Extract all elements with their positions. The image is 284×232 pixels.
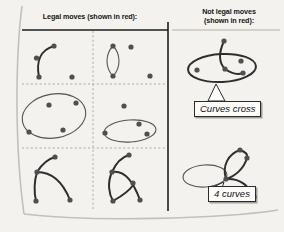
callout-curves-cross: Curves cross — [194, 101, 261, 117]
not-legal-moves-header-line2: (shown in red): — [181, 16, 277, 25]
cell-1-1 — [34, 43, 75, 79]
cell-1-2 — [107, 43, 153, 78]
page-edge-left — [17, 6, 24, 214]
figure-page: .curve{fill:none;stroke:#2e2e2e;stroke-w… — [0, 0, 284, 232]
legal-moves-header: Legal moves (shown in red): — [24, 12, 156, 21]
page-edge-bottom — [24, 210, 278, 219]
cell-2-2 — [102, 103, 156, 143]
callout-four-curves: 4 curves — [208, 186, 256, 202]
cell-2-1 — [19, 89, 90, 143]
cell-3-2 — [109, 152, 143, 203]
not-legal-moves-header: Not legal moves (shown in red): — [181, 7, 277, 25]
not-legal-moves-header-line1: Not legal moves — [181, 7, 277, 16]
cell-3-1 — [33, 154, 72, 203]
example-curves-cross — [187, 38, 256, 101]
callout-tail-curves-cross — [208, 84, 225, 101]
